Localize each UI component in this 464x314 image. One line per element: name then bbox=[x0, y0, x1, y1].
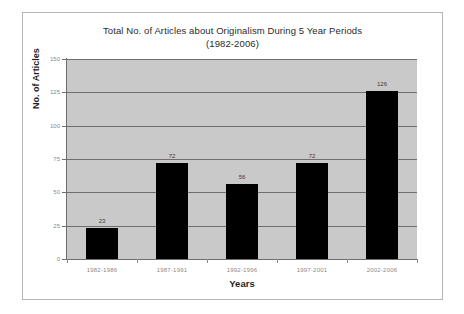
x-axis-tick-label: 1987-1991 bbox=[157, 267, 188, 273]
plot-area-wrapper: 0255075100125150 1982-19861987-19911992-… bbox=[67, 59, 417, 259]
x-axis-tick bbox=[67, 259, 68, 263]
bar-value-label: 126 bbox=[377, 81, 387, 87]
y-axis-tick bbox=[62, 192, 66, 193]
gridline bbox=[67, 159, 417, 160]
y-axis-tick-label: 150 bbox=[50, 56, 60, 62]
chart-card: Total No. of Articles about Originalism … bbox=[22, 12, 443, 300]
x-axis-tick-label: 1982-1986 bbox=[87, 267, 118, 273]
bar bbox=[156, 163, 188, 259]
chart-title-line2: (1982-2006) bbox=[206, 38, 259, 49]
bar bbox=[226, 184, 258, 259]
y-axis-tick bbox=[62, 226, 66, 227]
y-axis-tick bbox=[62, 59, 66, 60]
y-axis-tick-label: 50 bbox=[53, 189, 60, 195]
x-axis-tick bbox=[207, 259, 208, 263]
bar-value-label: 72 bbox=[169, 153, 176, 159]
y-axis-tick-label: 125 bbox=[50, 89, 60, 95]
chart-title: Total No. of Articles about Originalism … bbox=[23, 24, 442, 50]
bar-value-label: 56 bbox=[239, 174, 246, 180]
chart-title-line1: Total No. of Articles about Originalism … bbox=[103, 25, 362, 36]
gridline bbox=[67, 92, 417, 93]
y-axis-tick bbox=[62, 92, 66, 93]
bar bbox=[296, 163, 328, 259]
y-axis-label: No. of Articles bbox=[31, 48, 41, 109]
y-axis-tick bbox=[62, 259, 66, 260]
bar-value-label: 23 bbox=[99, 218, 106, 224]
y-axis-tick-label: 100 bbox=[50, 123, 60, 129]
gridline bbox=[67, 126, 417, 127]
y-axis-tick bbox=[62, 126, 66, 127]
x-axis-tick bbox=[347, 259, 348, 263]
y-axis-tick-label: 75 bbox=[53, 156, 60, 162]
x-axis-line bbox=[66, 259, 418, 260]
x-axis-tick bbox=[137, 259, 138, 263]
bar bbox=[366, 91, 398, 259]
x-axis-tick-label: 2002-2006 bbox=[367, 267, 398, 273]
y-axis-tick-label: 0 bbox=[57, 256, 60, 262]
x-axis-tick-label: 1997-2001 bbox=[297, 267, 328, 273]
x-axis-tick bbox=[277, 259, 278, 263]
x-axis-tick-label: 1992-1996 bbox=[227, 267, 258, 273]
bar-value-label: 72 bbox=[309, 153, 316, 159]
y-axis-tick-label: 25 bbox=[53, 223, 60, 229]
bar bbox=[86, 228, 118, 259]
x-axis-label: Years bbox=[67, 278, 417, 289]
x-axis-tick bbox=[417, 259, 418, 263]
y-axis-tick bbox=[62, 159, 66, 160]
